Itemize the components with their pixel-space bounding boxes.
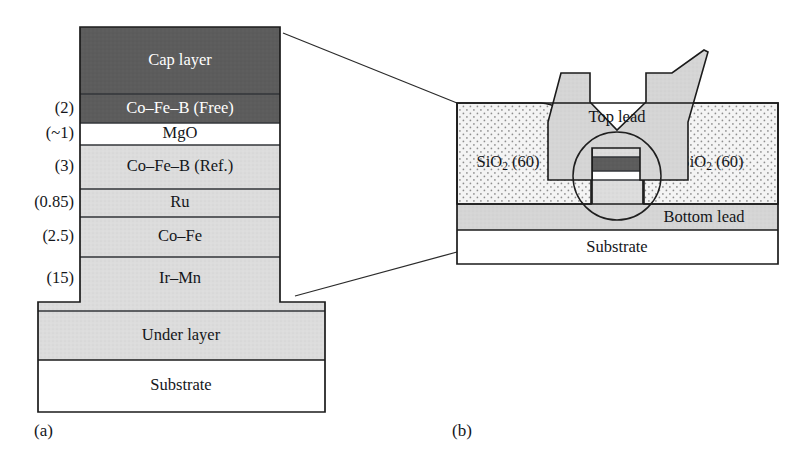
oxide-label-left: SiO2 (60) xyxy=(476,152,539,172)
mesa-stack: Cap layer Co–Fe–B (Free) MgO Co–Fe–B (Re… xyxy=(80,27,280,302)
layer-cofeb-ref: Co–Fe–B (Ref.) xyxy=(80,145,280,189)
layer-label-irmn: Ir–Mn xyxy=(159,268,201,287)
layer-label-under-layer: Under layer xyxy=(142,325,221,344)
leader-line-lower xyxy=(295,252,457,296)
thickness-cofe: (2.5) xyxy=(42,226,74,245)
layer-mgo: MgO xyxy=(80,123,280,145)
figure-container: Cap layer Co–Fe–B (Free) MgO Co–Fe–B (Re… xyxy=(0,0,802,463)
layer-cofe: Co–Fe xyxy=(80,217,280,257)
mtj-stack-figure: Cap layer Co–Fe–B (Free) MgO Co–Fe–B (Re… xyxy=(0,0,802,463)
panel-a: Cap layer Co–Fe–B (Free) MgO Co–Fe–B (Re… xyxy=(34,27,325,440)
layer-label-cofeb-ref: Co–Fe–B (Ref.) xyxy=(127,156,233,175)
caption-panel-b: (b) xyxy=(452,421,472,440)
thickness-cofeb-ref: (3) xyxy=(55,156,74,175)
oxide-right-thickness: (60) xyxy=(716,152,744,171)
layer-under-layer: Under layer xyxy=(38,302,325,360)
layer-cofeb-free: Co–Fe–B (Free) xyxy=(80,94,280,123)
layer-cap-layer: Cap layer xyxy=(80,27,280,94)
leader-line-upper xyxy=(283,33,457,103)
layer-label-cap-layer: Cap layer xyxy=(148,50,212,69)
layer-irmn: Ir–Mn xyxy=(80,257,280,302)
layer-label-ru: Ru xyxy=(170,192,189,211)
thickness-cofeb-free: (2) xyxy=(55,98,74,117)
thickness-labels: (2) (~1) (3) (0.85) (2.5) (15) xyxy=(34,98,74,287)
layer-ru: Ru xyxy=(80,189,280,217)
layer-bottom-lead: Bottom lead xyxy=(457,204,778,230)
panel-b: Substrate Bottom lead SiO2 (60) SiO2 (60… xyxy=(452,50,778,440)
thickness-irmn: (15) xyxy=(47,268,75,287)
layer-label-cofe: Co–Fe xyxy=(158,226,202,245)
caption-panel-a: (a) xyxy=(34,421,53,440)
layer-label-cofeb-free: Co–Fe–B (Free) xyxy=(126,98,234,117)
layer-label-substrate-a: Substrate xyxy=(150,375,211,394)
layer-label-mgo: MgO xyxy=(163,123,198,142)
layer-substrate-a: Substrate xyxy=(38,360,325,412)
leader-lines xyxy=(283,33,457,296)
oxide-left-formula: SiO xyxy=(476,152,502,171)
oxide-left-thickness: (60) xyxy=(512,152,540,171)
layer-substrate-b: Substrate xyxy=(457,230,778,264)
layer-label-bottom-lead: Bottom lead xyxy=(663,207,745,226)
thickness-ru: (0.85) xyxy=(34,192,74,211)
mtj-pillar xyxy=(592,148,643,204)
top-lead-label: Top lead xyxy=(588,107,646,126)
thickness-mgo: (~1) xyxy=(46,123,74,142)
oxide-label-right: SiO2 (60) xyxy=(680,152,743,172)
layer-label-substrate-b: Substrate xyxy=(586,237,647,256)
